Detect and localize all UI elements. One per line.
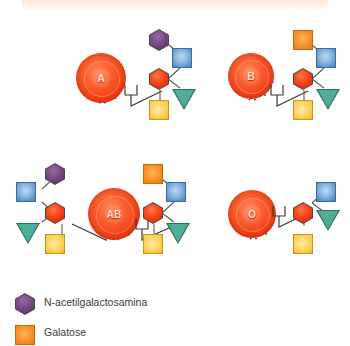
sugar-blue-square-b [316,48,336,68]
sugar-yellow-square-a [149,100,169,120]
figure-canvas: A [0,0,350,346]
rbc-label-a: A [76,53,126,103]
legend-label-galactose: Galatose [44,326,86,338]
legend-label-n-acetylgalactosamine: N-acetilgalactosamina [44,296,147,308]
top-accent-band [22,0,328,9]
sugar-yellow-square-b [293,100,313,120]
sugar-blue-square-a [172,48,192,68]
red-blood-cell-o: O [228,190,276,238]
sugar-blue-square-ab-right [166,182,186,202]
rbc-label-o: O [228,190,276,238]
sugar-yellow-square-ab-right [143,234,163,254]
sugar-yellow-square-ab-left [45,234,65,254]
sugar-blue-square-o [316,182,336,202]
sugar-galactose-square-b [293,30,313,50]
legend-square-icon [15,325,35,345]
red-blood-cell-ab: AB [88,188,140,240]
sugar-galactose-square-ab-right [143,164,163,184]
red-blood-cell-a: A [76,53,126,103]
sugar-yellow-square-o [293,234,313,254]
sugar-blue-square-ab-left [16,182,36,202]
rbc-label-ab: AB [88,188,140,240]
